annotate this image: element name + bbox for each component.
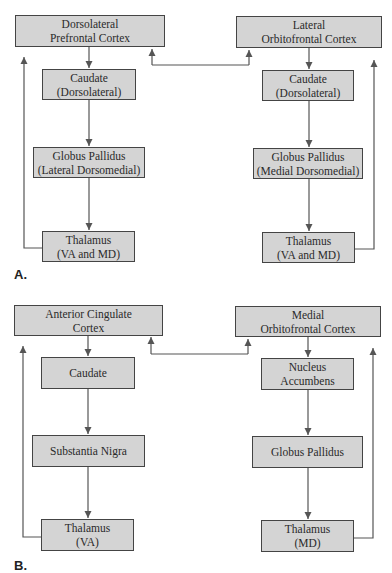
- box-label-line2: Cortex: [73, 321, 104, 335]
- box-label-line1: Globus Pallidus: [271, 150, 344, 164]
- box-globus-pallidus-b-right: Globus Pallidus: [252, 436, 363, 468]
- box-label-line1: Thalamus: [286, 234, 331, 248]
- box-thalamus-md-b-right: Thalamus (MD): [261, 520, 354, 552]
- panel-label-b: B.: [14, 558, 27, 573]
- box-label-line1: Thalamus: [285, 522, 330, 536]
- box-label-line1: Globus Pallidus: [271, 445, 344, 459]
- box-label-line2: (MD): [294, 536, 320, 550]
- box-substantia-nigra: Substantia Nigra: [32, 435, 145, 467]
- box-globus-pallidus-lateral-dorsomedial: Globus Pallidus (Lateral Dorsomedial): [33, 147, 145, 178]
- panel-label-a: A.: [14, 267, 27, 282]
- box-dorsolateral-prefrontal-cortex: Dorsolateral Prefrontal Cortex: [15, 15, 165, 47]
- box-nucleus-accumbens: Nucleus Accumbens: [261, 358, 354, 390]
- box-label-line2: Orbitofrontal Cortex: [262, 32, 357, 46]
- box-label-line1: Thalamus: [65, 521, 110, 535]
- box-globus-pallidus-medial-dorsomedial: Globus Pallidus (Medial Dorsomedial): [253, 148, 363, 179]
- box-label-line2: (Dorsolateral): [276, 86, 341, 100]
- box-label-line1: Anterior Cingulate: [45, 307, 132, 321]
- box-label-line1: Lateral: [293, 18, 326, 32]
- box-label-line2: (Dorsolateral): [57, 85, 122, 99]
- box-anterior-cingulate-cortex: Anterior Cingulate Cortex: [14, 305, 163, 336]
- box-label-line1: Caudate: [70, 71, 108, 85]
- box-caudate-dorsolateral-a-left: Caudate (Dorsolateral): [42, 69, 136, 100]
- box-label-line2: Orbitofrontal Cortex: [261, 322, 356, 336]
- box-label-line1: Substantia Nigra: [50, 444, 127, 458]
- box-thalamus-va-md-a-left: Thalamus (VA and MD): [42, 231, 135, 262]
- box-label-line2: Accumbens: [280, 374, 334, 388]
- box-label-line1: Dorsolateral: [62, 17, 119, 31]
- box-label-line2: (VA): [76, 535, 99, 549]
- box-label-line1: Caudate: [69, 366, 107, 380]
- box-label-line1: Caudate: [289, 72, 327, 86]
- box-label-line2: (Medial Dorsomedial): [257, 164, 360, 178]
- box-label-line1: Globus Pallidus: [52, 149, 125, 163]
- box-label-line1: Thalamus: [66, 233, 111, 247]
- box-label-line2: (Lateral Dorsomedial): [38, 163, 141, 177]
- box-thalamus-va-md-a-right: Thalamus (VA and MD): [262, 232, 355, 263]
- box-label-line1: Nucleus: [289, 360, 327, 374]
- box-medial-orbitofrontal-cortex: Medial Orbitofrontal Cortex: [235, 306, 381, 337]
- box-label-line2: Prefrontal Cortex: [50, 31, 130, 45]
- box-caudate-b-left: Caudate: [41, 357, 135, 389]
- box-caudate-dorsolateral-a-right: Caudate (Dorsolateral): [262, 70, 354, 101]
- box-label-line1: Medial: [292, 308, 325, 322]
- box-lateral-orbitofrontal-cortex: Lateral Orbitofrontal Cortex: [236, 16, 382, 48]
- box-thalamus-va-b-left: Thalamus (VA): [41, 519, 134, 551]
- box-label-line2: (VA and MD): [277, 248, 340, 262]
- box-label-line2: (VA and MD): [57, 247, 120, 261]
